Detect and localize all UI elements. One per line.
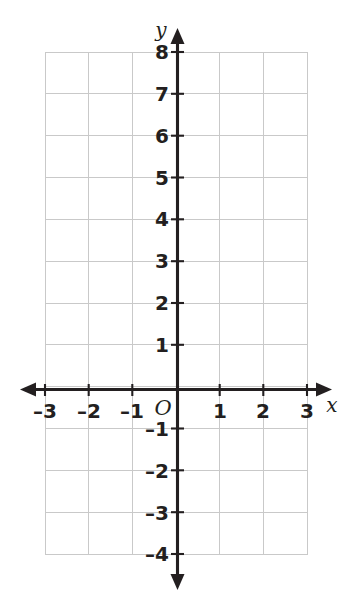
tick-label-y-neg4: –4	[145, 542, 169, 566]
x-axis-label: x	[326, 393, 337, 417]
tick-label-y-neg1: –1	[145, 417, 169, 441]
tick-label-y-7: 7	[155, 82, 169, 106]
tick-label-y-neg2: –2	[145, 459, 169, 483]
tick-label-x-pos2: 2	[256, 399, 270, 423]
y-axis-label: y	[154, 18, 167, 42]
origin-label: O	[154, 396, 171, 420]
coordinate-grid-figure: –3 –2 –1 1 2 3 8 7 6 5 4 3 2 1 –1 –2 –3 …	[0, 0, 352, 605]
tick-label-y-3: 3	[155, 249, 169, 273]
tick-label-x-pos3: 3	[300, 399, 314, 423]
tick-label-y-1: 1	[155, 333, 169, 357]
tick-label-y-6: 6	[155, 124, 169, 148]
tick-label-x-neg3: –3	[33, 399, 57, 423]
tick-label-y-2: 2	[155, 291, 169, 315]
y-axis-arrow-down-icon	[171, 574, 185, 590]
tick-label-x-pos1: 1	[213, 399, 227, 423]
tick-label-y-neg3: –3	[145, 501, 169, 525]
y-axis-arrow-up-icon	[171, 28, 185, 44]
x-axis-arrow-left-icon	[20, 383, 36, 397]
tick-label-x-neg2: –2	[77, 399, 101, 423]
x-axis-tick-labels: –3 –2 –1 1 2 3	[33, 399, 314, 423]
tick-label-y-8: 8	[155, 40, 169, 64]
tick-label-y-4: 4	[155, 207, 169, 231]
tick-label-x-neg1: –1	[120, 399, 144, 423]
coordinate-plane-svg: –3 –2 –1 1 2 3 8 7 6 5 4 3 2 1 –1 –2 –3 …	[0, 0, 352, 605]
tick-label-y-5: 5	[155, 166, 169, 190]
y-axis	[171, 28, 185, 590]
